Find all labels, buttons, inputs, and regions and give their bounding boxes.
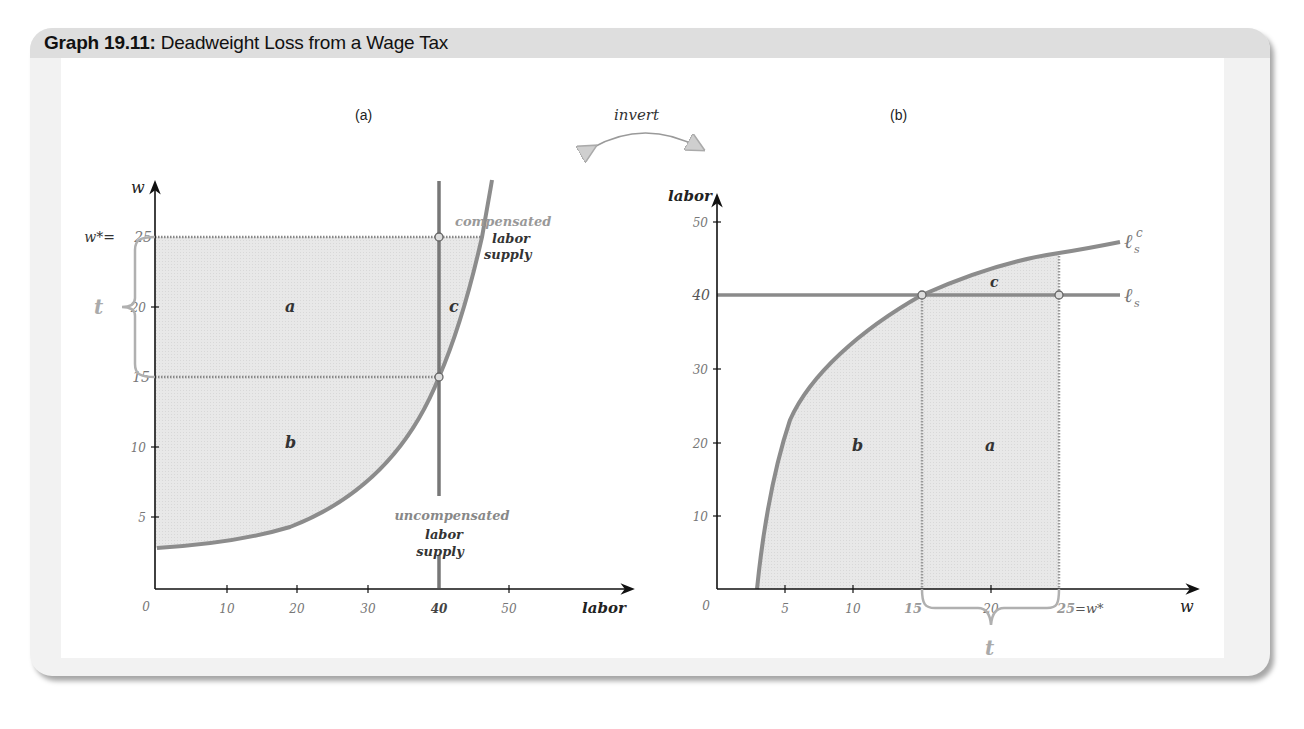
region-b-label: b: [285, 433, 296, 452]
x-axis-label-a: labor: [582, 599, 627, 617]
point-25-40: [1055, 291, 1063, 299]
charts-svg: invert 5: [0, 0, 1304, 729]
x-tick-10: 10: [219, 602, 235, 616]
region-c-label-b: c: [990, 274, 999, 290]
x-tick-b-5: 5: [781, 602, 789, 616]
svg-text:ℓ: ℓ: [1124, 283, 1133, 307]
y-axis-label-b: labor: [668, 187, 713, 205]
w-star-label: w*=: [84, 229, 115, 245]
svg-text:ℓ: ℓ: [1124, 229, 1133, 253]
svg-text:labor: labor: [425, 527, 464, 542]
x-tick-40: 40: [431, 602, 448, 616]
y-tick-b-20: 20: [692, 437, 709, 451]
invert-arrow: invert: [592, 106, 700, 148]
region-a-c: [155, 237, 482, 377]
y-tick-5: 5: [138, 511, 146, 525]
svg-text:s: s: [1134, 297, 1140, 310]
region-a-label-b: a: [985, 436, 995, 455]
svg-text:c: c: [1136, 226, 1143, 240]
svg-text:s: s: [1134, 243, 1140, 256]
x-tick-b-10: 10: [845, 602, 861, 616]
x-tick-20: 20: [288, 602, 305, 616]
x-axis-label-b: w: [1180, 597, 1194, 616]
y-tick-b-10: 10: [693, 510, 709, 524]
x-tick-b-0: 0: [702, 599, 710, 613]
uncompensated-label: uncompensated: [394, 508, 509, 523]
y-tick-b-30: 30: [693, 363, 709, 377]
region-b-label-b: b: [852, 436, 863, 455]
panel-b: 10 20 30 40 50 labor 0 5 10 15 20 25 =w*…: [668, 187, 1197, 660]
curve-label-compensated: ℓ s c: [1124, 226, 1143, 256]
svg-text:supply: supply: [416, 544, 465, 559]
x-tick-b-25: 25: [1056, 601, 1075, 616]
x-tick-0: 0: [142, 600, 150, 614]
tax-label-a: t: [94, 295, 104, 319]
compensated-label: compensated: [455, 214, 551, 229]
svg-text:supply: supply: [484, 247, 533, 262]
y-tick-b-40: 40: [691, 287, 710, 303]
y-axis-label-a: w: [131, 178, 145, 197]
y-tick-b-50: 50: [693, 216, 709, 230]
panel-a: 5 10 15 20 25 w*= w 0 10 20 30 40 50 lab…: [84, 178, 632, 617]
point-15-40: [918, 291, 926, 299]
point-40-15: [435, 373, 443, 381]
w-star-suffix: =w*: [1075, 601, 1104, 616]
point-40-25: [435, 233, 443, 241]
region-c-label: c: [449, 297, 459, 316]
invert-label: invert: [614, 106, 660, 124]
x-tick-30: 30: [360, 602, 376, 616]
y-tick-10: 10: [131, 441, 147, 455]
x-tick-50: 50: [501, 602, 517, 616]
x-tick-b-15: 15: [904, 601, 922, 616]
svg-text:labor: labor: [492, 231, 531, 246]
tax-label-b: t: [985, 636, 995, 660]
curve-label-uncompensated: ℓ s: [1124, 283, 1140, 310]
region-a-label: a: [285, 297, 295, 316]
